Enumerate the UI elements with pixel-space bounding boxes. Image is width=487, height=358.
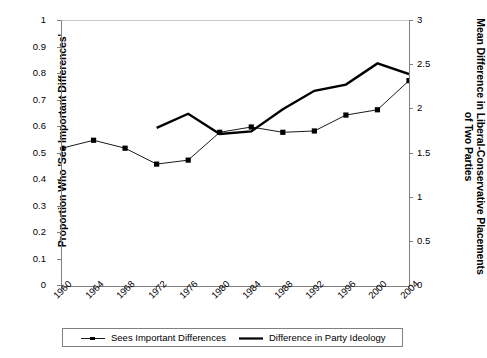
y-axis-right-tick-label: 1.5 — [417, 147, 457, 158]
y-axis-left-tick-label: 0.4 — [0, 173, 55, 184]
y-axis-right-tick-mark — [409, 64, 413, 65]
plot-area — [61, 20, 410, 287]
legend-label-sees-important-differences: Sees Important Differences — [111, 332, 226, 343]
y-axis-left-tick-label: 0.7 — [0, 94, 55, 105]
legend-label-difference-in-party-ideology: Difference in Party Ideology — [269, 332, 386, 343]
y-axis-left-tick-label: 0.5 — [0, 147, 55, 158]
y-axis-left-tick-label: 0.1 — [0, 253, 55, 264]
y-axis-left-tick-mark — [57, 153, 61, 154]
data-point-marker — [154, 162, 159, 167]
y-axis-left-tick-mark — [57, 100, 61, 101]
y-axis-right-tick-label: 3 — [417, 14, 457, 25]
y-axis-left-tick-mark — [57, 232, 61, 233]
y-axis-left-tick-mark — [57, 259, 61, 260]
y-axis-left-tick-label: 0 — [0, 279, 55, 290]
y-axis-left-tick-label: 0.6 — [0, 120, 55, 131]
y-axis-right-tick-label: 2 — [417, 102, 457, 113]
data-point-marker — [122, 146, 127, 151]
y-axis-left-tick-mark — [57, 179, 61, 180]
y-axis-left-tick-label: 0.2 — [0, 226, 55, 237]
y-axis-left-tick-label: 0.3 — [0, 200, 55, 211]
y-axis-right-tick-mark — [409, 241, 413, 242]
data-point-marker — [312, 128, 317, 133]
y-axis-left-tick-mark — [57, 20, 61, 21]
y-axis-right-tick-label: 1 — [417, 191, 457, 202]
series-markers-sees-important-differences — [62, 78, 409, 167]
y-axis-left-tick-mark — [57, 126, 61, 127]
y-axis-left-tick-mark — [57, 73, 61, 74]
plot-series-canvas — [62, 21, 409, 286]
data-point-marker — [186, 158, 191, 163]
data-point-marker — [280, 130, 285, 135]
y-axis-left-tick-mark — [57, 47, 61, 48]
legend-symbol-difference-in-party-ideology — [239, 337, 263, 340]
data-point-marker — [343, 112, 348, 117]
data-point-marker — [91, 138, 96, 143]
y-axis-left-tick-label: 1 — [0, 14, 55, 25]
data-point-marker — [375, 107, 380, 112]
y-axis-left-tick-label: 0.8 — [0, 67, 55, 78]
data-point-marker — [406, 78, 409, 83]
y-axis-left-tick-mark — [57, 206, 61, 207]
data-point-marker — [62, 146, 65, 151]
y-axis-right-tick-label: 0 — [417, 279, 457, 290]
y-axis-left-tick-label: 0.9 — [0, 41, 55, 52]
y-axis-right-tick-label: 2.5 — [417, 58, 457, 69]
series-line-sees-important-differences — [62, 81, 409, 164]
y-axis-label-right: Mean Difference in Liberal-Conservative … — [463, 14, 486, 279]
legend-symbol-sees-important-differences — [81, 337, 105, 340]
y-axis-right-tick-mark — [409, 20, 413, 21]
series-line-difference-in-party-ideology — [157, 63, 409, 134]
chart-legend: Sees Important Differences Difference in… — [62, 328, 403, 347]
y-axis-right-tick-mark — [409, 153, 413, 154]
y-axis-right-tick-mark — [409, 108, 413, 109]
y-axis-right-tick-mark — [409, 197, 413, 198]
y-axis-right-tick-label: 0.5 — [417, 235, 457, 246]
